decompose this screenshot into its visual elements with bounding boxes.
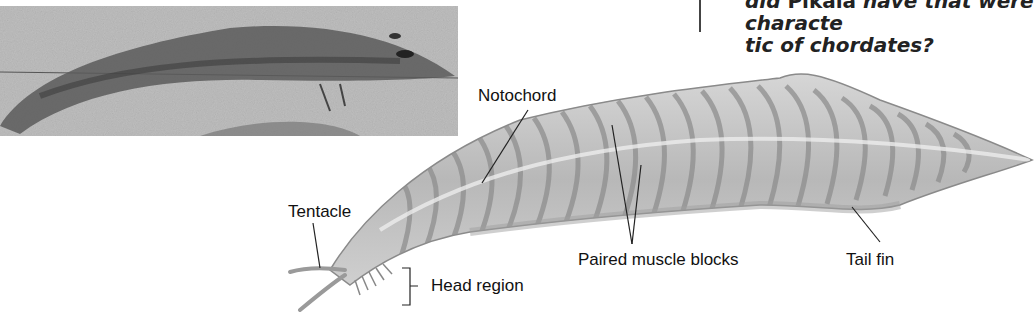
label-tail-fin: Tail fin bbox=[846, 250, 894, 270]
head-region-bracket bbox=[402, 268, 418, 305]
label-notochord: Notochord bbox=[478, 86, 556, 106]
label-head-region: Head region bbox=[431, 276, 524, 296]
label-tentacle: Tentacle bbox=[288, 202, 351, 222]
label-paired-muscle-blocks: Paired muscle blocks bbox=[578, 250, 739, 270]
tentacle-leader bbox=[313, 223, 320, 268]
